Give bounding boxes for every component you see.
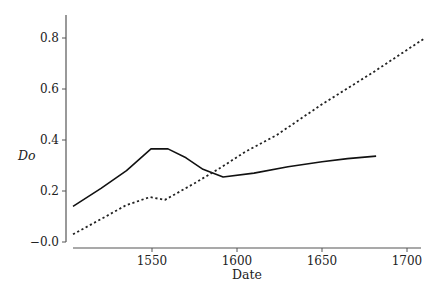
x-axis-label: Date (232, 267, 262, 282)
y-axis-label: Do (17, 148, 36, 163)
y-tick-label: 0.6 (40, 82, 59, 96)
series-dashed-line (73, 38, 425, 234)
x-tick-label: 1650 (307, 254, 338, 268)
axes: −0.00.20.40.60.8 1550160016501700 (30, 15, 422, 268)
y-tick-label: 0.8 (40, 31, 59, 45)
series-solid-line (73, 149, 376, 206)
x-tick-label: 1700 (392, 254, 423, 268)
x-ticks: 1550160016501700 (137, 248, 423, 268)
line-chart: −0.00.20.40.60.8 1550160016501700 Do Dat… (0, 0, 441, 293)
y-ticks: −0.00.20.40.60.8 (30, 31, 66, 249)
series-group (73, 38, 425, 234)
x-tick-label: 1600 (222, 254, 253, 268)
y-tick-label: 0.2 (40, 184, 59, 198)
y-tick-label: 0.4 (40, 133, 59, 147)
x-tick-label: 1550 (137, 254, 168, 268)
y-tick-label: −0.0 (30, 235, 59, 249)
